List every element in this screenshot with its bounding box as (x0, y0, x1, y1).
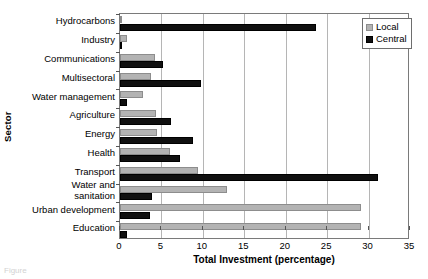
bar-central (120, 212, 150, 219)
x-axis-tick (243, 226, 244, 230)
bar-local (120, 148, 170, 155)
bar-local (120, 204, 361, 211)
legend: Local Central (362, 18, 412, 49)
bar-central (120, 193, 152, 200)
x-axis-tick (368, 226, 369, 230)
y-axis-tick (116, 165, 120, 166)
legend-swatch-local (366, 24, 373, 31)
x-axis-tick-label: 0 (106, 240, 132, 251)
bar-group (120, 108, 408, 127)
y-axis-title: Sector (2, 92, 16, 162)
x-axis-tick-label: 35 (396, 240, 422, 251)
x-axis-tick (160, 226, 161, 230)
legend-label-central: Central (376, 33, 407, 45)
y-axis-category-label: Water and sanitation (72, 180, 115, 201)
bar-group (120, 146, 408, 165)
bar-local (120, 129, 157, 136)
y-axis-category-label: Water management (32, 92, 115, 103)
y-axis-category-label: Communications (44, 54, 115, 65)
y-axis-tick (116, 221, 120, 222)
bar-local (120, 167, 198, 174)
y-axis-tick (116, 184, 120, 185)
y-axis-category-label: Hydrocarbons (56, 16, 115, 27)
x-axis-tick (409, 226, 410, 230)
legend-swatch-central (366, 36, 373, 43)
x-axis-tick (326, 226, 327, 230)
bar-group (120, 184, 408, 203)
y-axis-category-label: Industry (81, 35, 115, 46)
y-axis-category-label: Energy (85, 129, 115, 140)
x-axis-tick (285, 226, 286, 230)
bar-central (120, 99, 127, 106)
y-axis-tick (116, 52, 120, 53)
y-axis-category-label: Transport (75, 167, 115, 178)
y-axis-category-label: Health (88, 148, 115, 159)
x-axis-tick (202, 226, 203, 230)
bar-central (120, 24, 316, 31)
legend-item-local: Local (366, 21, 407, 33)
x-axis-tick-label: 25 (313, 240, 339, 251)
y-axis-tick (116, 71, 120, 72)
bar-local (120, 110, 156, 117)
y-axis-tick (116, 89, 120, 90)
bar-group (120, 127, 408, 146)
x-axis-tick (119, 226, 120, 230)
bar-group (120, 52, 408, 71)
bar-group (120, 202, 408, 221)
bar-group (120, 221, 408, 240)
bar-central (120, 231, 127, 238)
y-axis-tick (116, 14, 120, 15)
bar-local (120, 186, 227, 193)
x-axis-tick-label: 5 (147, 240, 173, 251)
y-axis-category-label: Multisectoral (62, 73, 115, 84)
y-axis-category-label: Urban development (32, 205, 115, 216)
x-axis-tick-label: 20 (272, 240, 298, 251)
legend-label-local: Local (376, 21, 399, 33)
bar-central (120, 118, 171, 125)
legend-item-central: Central (366, 33, 407, 45)
bar-group (120, 89, 408, 108)
bar-central (120, 61, 163, 68)
bar-group (120, 165, 408, 184)
bar-central (120, 174, 378, 181)
x-axis-tick-label: 15 (230, 240, 256, 251)
y-axis-tick (116, 202, 120, 203)
y-axis-tick (116, 127, 120, 128)
bar-group (120, 71, 408, 90)
x-axis-title: Total Investment (percentage) (119, 254, 409, 265)
bar-central (120, 80, 201, 87)
bar-local (120, 35, 127, 42)
bar-local (120, 16, 122, 23)
bar-local (120, 91, 143, 98)
bar-local (120, 54, 155, 61)
figure-caption: Figure (4, 266, 27, 275)
bar-central (120, 155, 180, 162)
bar-local (120, 73, 151, 80)
y-axis-category-label: Education (73, 223, 115, 234)
y-axis-tick (116, 108, 120, 109)
y-axis-tick (116, 146, 120, 147)
bar-local (120, 223, 361, 230)
bar-central (120, 42, 122, 49)
bar-chart: Sector Total Investment (percentage) Loc… (0, 0, 428, 279)
x-axis-tick-label: 30 (355, 240, 381, 251)
x-axis-tick-label: 10 (189, 240, 215, 251)
y-axis-category-label: Agriculture (70, 110, 115, 121)
bar-central (120, 137, 193, 144)
y-axis-tick (116, 33, 120, 34)
